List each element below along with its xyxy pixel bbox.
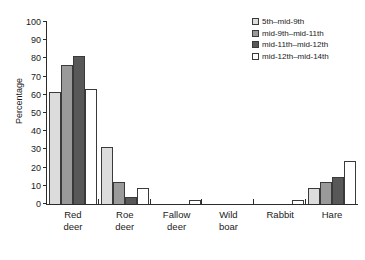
x-axis-tick-label: Reddeer (47, 209, 99, 232)
legend-label: mid-9th–mid-11th (262, 28, 324, 40)
legend: 5th–mid-9thmid-9th–mid-11thmid-11th–mid-… (252, 16, 329, 62)
bar-group: Reddeer (47, 22, 99, 204)
x-axis-tick-label: Roedeer (99, 209, 151, 232)
bar (101, 147, 113, 204)
legend-label: 5th–mid-9th (262, 16, 304, 28)
x-axis-tick-label-line: Red (47, 209, 99, 221)
legend-item: mid-11th–mid-12th (252, 39, 329, 51)
legend-item: mid-9th–mid-11th (252, 28, 329, 40)
bar (344, 161, 356, 204)
x-axis-tick-label-line: boar (202, 221, 254, 233)
x-axis-tick-label: Fallowdeer (151, 209, 203, 232)
bar (320, 182, 332, 204)
legend-swatch (252, 30, 259, 37)
bar-group: Wildboar (202, 22, 254, 204)
bar (137, 188, 149, 204)
legend-label: mid-12th–mid-14th (262, 51, 329, 63)
y-axis-title: Percentage (14, 46, 24, 156)
x-axis-tick-label-line: deer (99, 221, 151, 233)
bar-chart: Percentage 0102030405060708090100 Reddee… (0, 0, 365, 260)
bar (49, 92, 61, 204)
x-axis-tick-label-line: Hare (306, 209, 358, 221)
legend-item: mid-12th–mid-14th (252, 51, 329, 63)
legend-label: mid-11th–mid-12th (262, 39, 328, 51)
legend-swatch (252, 41, 259, 48)
bar (125, 197, 137, 204)
bar (61, 65, 73, 204)
x-axis-tick-label-line: Fallow (151, 209, 203, 221)
x-axis-tick-label-line: deer (47, 221, 99, 233)
x-axis-tick-label-line: Rabbit (254, 209, 306, 221)
bar (332, 177, 344, 204)
legend-swatch (252, 53, 259, 60)
x-axis-tick-label: Wildboar (202, 209, 254, 232)
bar (85, 89, 97, 204)
x-axis-tick-label-line: Roe (99, 209, 151, 221)
bar-group: Fallowdeer (151, 22, 203, 204)
x-axis-tick-label-line: deer (151, 221, 203, 233)
bar (113, 182, 125, 204)
bar-group: Roedeer (99, 22, 151, 204)
bar (73, 56, 85, 204)
bar (292, 200, 304, 204)
bar (189, 200, 201, 204)
bar (308, 188, 320, 204)
x-axis-tick-label: Rabbit (254, 209, 306, 221)
legend-swatch (252, 18, 259, 25)
x-axis-tick-label: Hare (306, 209, 358, 221)
legend-item: 5th–mid-9th (252, 16, 329, 28)
x-axis-tick-label-line: Wild (202, 209, 254, 221)
